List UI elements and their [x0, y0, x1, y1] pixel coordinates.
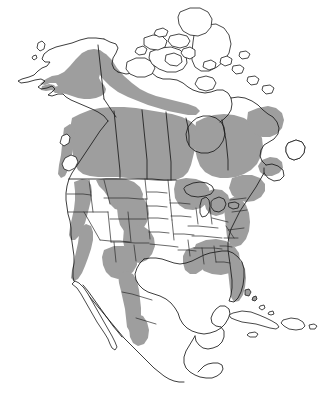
north-america-map-svg: [0, 0, 328, 410]
island-arctic-small-4: [220, 56, 232, 66]
range-patch-islet-2: [252, 296, 257, 301]
range-patch-canada-provinces: [70, 107, 198, 181]
island-melville: [144, 35, 167, 50]
island-kodiak: [37, 41, 45, 51]
range-map-figure: Range Outside range: [0, 0, 328, 410]
island-puerto-rico: [309, 324, 317, 329]
